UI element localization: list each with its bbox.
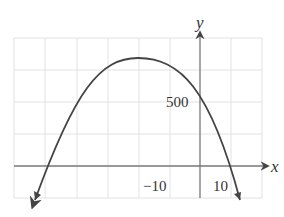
- x-axis-label: x: [270, 157, 279, 176]
- y-axis-label: y: [194, 13, 204, 32]
- tick-label-10: 10: [213, 178, 228, 194]
- parabola-curve-full: [35, 58, 240, 200]
- parabola-chart: y x 500 −10 10: [0, 0, 284, 217]
- tick-label-500: 500: [166, 94, 189, 110]
- arrow-right-end: [234, 192, 241, 200]
- grid: [14, 38, 262, 198]
- tick-label-neg10: −10: [143, 178, 166, 194]
